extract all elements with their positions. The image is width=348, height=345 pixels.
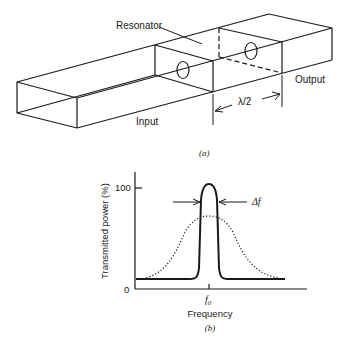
output-end-top-edge bbox=[269, 14, 332, 28]
top-front-edge bbox=[77, 28, 332, 98]
caption-b: (b) bbox=[205, 323, 216, 333]
iris1-top-edge bbox=[155, 45, 213, 61]
iris2-top-edge bbox=[219, 28, 282, 42]
iris1-bottom-edge bbox=[155, 75, 213, 92]
y-axis-label: Transmitted power (%) bbox=[99, 183, 110, 279]
f0-label: f0 bbox=[205, 294, 212, 307]
input-end-top-edge bbox=[17, 82, 77, 98]
input-end-bottom-edge bbox=[17, 113, 77, 128]
resonance-curve bbox=[136, 184, 285, 279]
half-wavelength-label: λ/2 bbox=[238, 96, 252, 107]
y-tick-label-0: 0 bbox=[124, 284, 129, 295]
dimension-arrow-left-shaft bbox=[215, 105, 232, 111]
transmission-chart bbox=[135, 172, 307, 289]
waveguide-diagram bbox=[17, 14, 332, 128]
broad-response-curve bbox=[140, 216, 285, 279]
caption-a: (a) bbox=[199, 148, 210, 158]
output-label: Output bbox=[295, 74, 325, 85]
x-axis-label: Frequency bbox=[188, 308, 233, 319]
bandwidth-label: Δf bbox=[251, 196, 262, 207]
input-label: Input bbox=[136, 116, 158, 127]
y-tick-label-100: 100 bbox=[115, 182, 131, 193]
input-end-diagonal bbox=[17, 75, 155, 113]
figure-canvas: Resonator Input Output λ/2 (a) 100 0 Tra… bbox=[0, 0, 348, 345]
resonator-label: Resonator bbox=[116, 20, 163, 31]
bottom-front-edge bbox=[77, 60, 332, 128]
